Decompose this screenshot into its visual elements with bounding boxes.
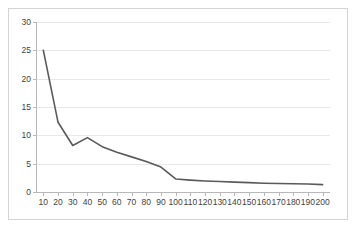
x-axis-tickmarks — [33, 23, 324, 196]
gridlines-group — [36, 23, 330, 193]
x-tick-label-150: 150 — [242, 197, 256, 207]
x-tick-label-30: 30 — [68, 197, 78, 207]
x-tick-label-120: 120 — [198, 197, 212, 207]
y-tick-label-20: 20 — [22, 74, 32, 84]
y-tick-label-10: 10 — [22, 130, 32, 140]
x-tick-label-70: 70 — [127, 197, 137, 207]
x-tick-label-170: 170 — [271, 197, 285, 207]
line-chart-plot[interactable]: 051015202530 102030405060708090100110120… — [0, 0, 356, 229]
y-tick-label-15: 15 — [22, 102, 32, 112]
y-tick-label-5: 5 — [26, 159, 31, 169]
x-tick-label-110: 110 — [184, 197, 198, 207]
x-tick-label-160: 160 — [257, 197, 271, 207]
x-tick-label-90: 90 — [156, 197, 166, 207]
y-tick-label-30: 30 — [22, 17, 32, 27]
chart-container: 051015202530 102030405060708090100110120… — [0, 0, 356, 229]
y-tick-label-25: 25 — [22, 45, 32, 55]
x-tick-label-80: 80 — [142, 197, 152, 207]
x-tick-label-200: 200 — [316, 197, 330, 207]
x-tick-label-140: 140 — [227, 197, 241, 207]
x-tick-label-180: 180 — [286, 197, 300, 207]
y-tick-label-0: 0 — [26, 187, 31, 197]
x-tick-label-60: 60 — [112, 197, 122, 207]
y-axis-tick-labels: 051015202530 — [22, 17, 32, 197]
x-axis-tick-labels: 1020304050607080901001101201301401501601… — [39, 197, 330, 207]
x-tick-label-10: 10 — [39, 197, 49, 207]
x-tick-label-50: 50 — [97, 197, 107, 207]
x-tick-label-40: 40 — [83, 197, 93, 207]
x-tick-label-130: 130 — [213, 197, 227, 207]
x-tick-label-20: 20 — [53, 197, 63, 207]
x-tick-label-190: 190 — [301, 197, 315, 207]
x-tick-label-100: 100 — [169, 197, 183, 207]
